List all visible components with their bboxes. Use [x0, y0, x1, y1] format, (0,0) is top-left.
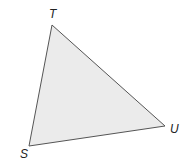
vertex-label-u: U — [170, 122, 179, 136]
vertex-label-t: T — [49, 7, 58, 21]
triangle-stu — [29, 25, 165, 146]
triangle-diagram: T U S — [0, 0, 188, 165]
vertex-label-s: S — [20, 147, 28, 161]
